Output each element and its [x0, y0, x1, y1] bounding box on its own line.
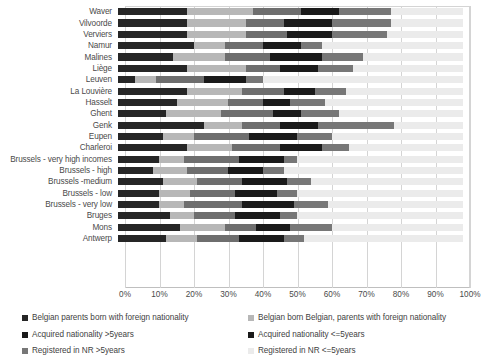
bar-segment [363, 53, 463, 60]
bar-segment [163, 133, 194, 140]
stacked-bar [118, 190, 463, 197]
bar-track [118, 176, 463, 187]
bar-segment [290, 99, 325, 106]
bar-segment [118, 144, 187, 151]
stacked-bar [118, 167, 463, 174]
bar-segment [284, 235, 305, 242]
bar-segment [184, 201, 243, 208]
bar-track [118, 51, 463, 62]
bar-segment [297, 133, 332, 140]
bar-track [118, 131, 463, 142]
bar-segment [242, 201, 294, 208]
stacked-bar [118, 133, 463, 140]
bar-segment [349, 144, 463, 151]
bar-segment [332, 31, 387, 38]
bar-track [118, 222, 463, 233]
category-label: Brussels - very low [0, 200, 118, 209]
bar-segment [118, 99, 177, 106]
bar-segment [253, 8, 301, 15]
stacked-bar [118, 201, 463, 208]
bar-segment [118, 122, 204, 129]
bar-row: Brussels - high [0, 165, 487, 176]
bar-segment [204, 76, 245, 83]
bar-row: Brussels - very low [0, 199, 487, 210]
bar-segment [322, 144, 350, 151]
bar-track [118, 17, 463, 28]
bar-segment [118, 76, 135, 83]
category-label: Ghent [0, 109, 118, 118]
bar-segment [239, 156, 284, 163]
bar-segment [263, 99, 291, 106]
category-label: Charleroi [0, 143, 118, 152]
stacked-bar [118, 19, 463, 26]
bar-segment [194, 42, 225, 49]
category-label: Brussels -medium [0, 177, 118, 186]
bar-segment [118, 31, 187, 38]
x-axis-tick-label: 30% [220, 290, 236, 300]
stacked-bar [118, 88, 463, 95]
bar-segment [287, 178, 311, 185]
bar-segment [242, 88, 283, 95]
legend-item[interactable]: Registered in NR <=5years [248, 343, 446, 360]
legend-item[interactable]: Belgian parents born with foreign nation… [22, 310, 189, 327]
bar-segment [301, 42, 322, 49]
bar-segment [315, 88, 346, 95]
legend-item[interactable]: Acquired nationality <=5years [248, 327, 446, 344]
bar-segment [391, 19, 463, 26]
bar-row: Liège [0, 63, 487, 74]
stacked-bar [118, 144, 463, 151]
bar-segment [249, 133, 297, 140]
bar-segment [353, 65, 463, 72]
bar-row: Eupen [0, 131, 487, 142]
bar-track [118, 210, 463, 221]
bar-segment [118, 19, 187, 26]
bar-segment [118, 133, 163, 140]
bar-segment [225, 53, 270, 60]
category-label: Brussels - very high incomes [0, 155, 118, 164]
bar-segment [118, 235, 166, 242]
bar-segment [187, 167, 228, 174]
bar-segment [235, 190, 276, 197]
category-label: Brussels - low [0, 189, 118, 198]
legend-label: Belgian parents born with foreign nation… [32, 313, 189, 323]
x-axis: 0%10%20%30%40%50%60%70%80%90%100% [125, 290, 470, 304]
stacked-bar [118, 156, 463, 163]
bar-segment [339, 8, 391, 15]
bar-segment [284, 88, 315, 95]
bar-segment [159, 201, 183, 208]
bar-segment [187, 19, 246, 26]
bar-row: Mons [0, 222, 487, 233]
bar-segment [118, 224, 180, 231]
stacked-bar [118, 224, 463, 231]
category-label: Liège [0, 64, 118, 73]
bar-segment [118, 88, 187, 95]
x-axis-tick-label: 80% [393, 290, 409, 300]
legend-item[interactable]: Belgian born Belgian, parents with forei… [248, 310, 446, 327]
legend-item[interactable]: Registered in NR >5years [22, 343, 189, 360]
stacked-bar [118, 53, 463, 60]
bar-segment [194, 133, 249, 140]
bar-segment [225, 42, 263, 49]
bar-row: Charleroi [0, 142, 487, 153]
bar-segment [118, 65, 187, 72]
stacked-bar [118, 178, 463, 185]
bar-segment [280, 212, 297, 219]
bar-track [118, 142, 463, 153]
bar-track [118, 63, 463, 74]
bar-segment [228, 167, 263, 174]
bar-segment [173, 53, 225, 60]
legend-column-right: Belgian born Belgian, parents with forei… [248, 310, 446, 360]
bar-segment [332, 19, 391, 26]
bar-track [118, 233, 463, 244]
bar-segment [277, 190, 298, 197]
bar-segment [256, 224, 291, 231]
legend-item[interactable]: Acquired nationality >5years [22, 327, 189, 344]
bar-segment [118, 167, 153, 174]
bar-segment [187, 65, 246, 72]
bar-segment [301, 110, 339, 117]
bar-row: Bruges [0, 210, 487, 221]
category-label: Genk [0, 121, 118, 130]
bar-segment [118, 190, 159, 197]
bar-segment [118, 178, 163, 185]
stacked-bar [118, 99, 463, 106]
